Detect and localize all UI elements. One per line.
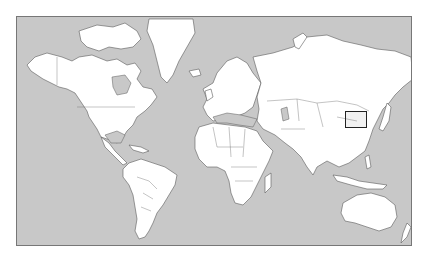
landmass-caribbean xyxy=(129,145,149,153)
landmass-north-america xyxy=(27,53,157,143)
highlight-box-north-china: Highlighted region: North China Plain / … xyxy=(345,111,367,128)
landmass-madagascar xyxy=(265,173,271,193)
landmass-australia xyxy=(341,193,397,231)
landmass-new-zealand xyxy=(401,223,411,243)
landmass-philippines xyxy=(365,155,371,169)
landmass-greenland xyxy=(147,19,195,83)
landmass-indonesia xyxy=(333,175,387,189)
world-map-svg xyxy=(17,17,412,246)
landmass-iceland xyxy=(189,69,201,77)
world-map: World map (Mercator) with highlighted re… xyxy=(16,16,412,246)
landmass-africa xyxy=(195,123,273,205)
landmass-south-america xyxy=(123,159,177,239)
landmass-europe xyxy=(203,57,261,121)
landmass-arctic-islands xyxy=(79,23,141,51)
